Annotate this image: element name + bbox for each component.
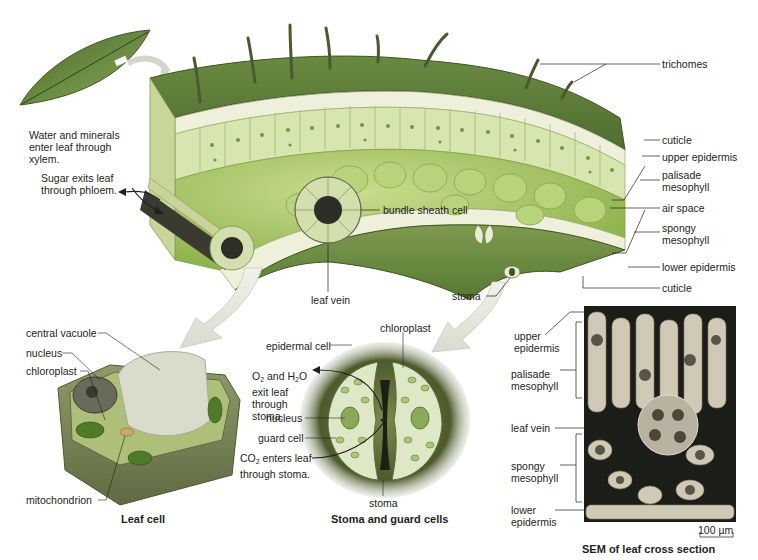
phloem-note: Sugar exits leaf through phloem. (41, 172, 119, 196)
leaf-cross-section (140, 25, 625, 300)
label-trichomes: trichomes (662, 58, 708, 70)
label-stoma-bottom: stoma (369, 497, 398, 509)
label-central-vacuole: central vacuole (26, 327, 97, 339)
caption-stoma-guard-cells: Stoma and guard cells (331, 513, 448, 525)
label-chloroplast-cell: chloroplast (26, 365, 77, 377)
label-lower-epidermis: lower epidermis (662, 261, 736, 273)
label-stoma-top: stoma (452, 290, 481, 302)
leaf-cell-illustration (58, 333, 240, 505)
sem-scale-bar: 100 µm (698, 524, 733, 536)
label-bundle-sheath-cell: bundle sheath cell (383, 204, 468, 216)
label-sem-lower-epidermis: lower epidermis (511, 504, 567, 528)
label-upper-epidermis: upper epidermis (662, 151, 737, 163)
label-cuticle-lower: cuticle (662, 282, 692, 294)
label-mitochondrion: mitochondrion (26, 494, 92, 506)
xylem-note: Water and minerals enter leaf through xy… (29, 129, 144, 165)
label-epidermal-cell: epidermal cell (266, 340, 331, 352)
label-sem-leaf-vein: leaf vein (511, 422, 550, 434)
caption-leaf-cell: Leaf cell (121, 513, 165, 525)
bundle-sheath-circle (295, 177, 361, 243)
leaf-anatomy-artwork (0, 0, 758, 560)
label-palisade-mesophyll: palisade mesophyll (662, 169, 732, 193)
label-sem-palisade-mesophyll: palisade mesophyll (511, 368, 567, 392)
stoma-illustration (300, 332, 470, 498)
label-leaf-vein: leaf vein (311, 294, 350, 306)
label-cuticle-upper: cuticle (662, 134, 692, 146)
label-chloroplast-stoma: chloroplast (380, 322, 431, 334)
label-guard-cell: guard cell (258, 432, 304, 444)
label-sem-spongy-mesophyll: spongy mesophyll (511, 460, 567, 484)
label-air-space: air space (662, 202, 705, 214)
arrow-to-leaf-cell (180, 268, 262, 348)
label-sem-upper-epidermis: upper epidermis (514, 330, 566, 354)
label-nucleus-cell: nucleus (26, 347, 62, 359)
whole-leaf-icon (20, 30, 172, 105)
label-nucleus-stoma: nucleus (266, 412, 302, 424)
label-spongy-mesophyll: spongy mesophyll (662, 222, 732, 246)
sem-micrograph (545, 306, 736, 537)
label-co2-enters: CO2 enters leafthrough stoma. (240, 452, 320, 480)
caption-sem: SEM of leaf cross section (582, 543, 715, 555)
